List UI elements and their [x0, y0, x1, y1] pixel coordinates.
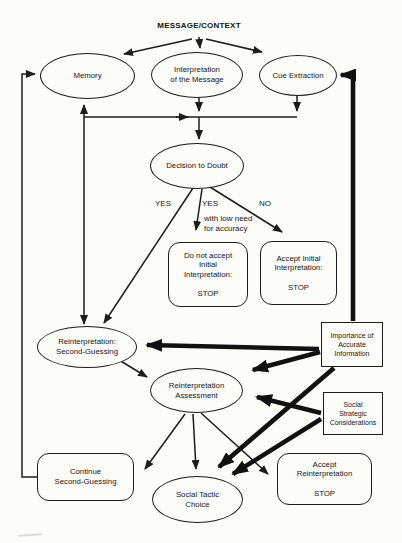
social-strategic-label: Social Strategic Considerations	[330, 400, 377, 427]
importance-label: Importance of Accurate Information	[331, 331, 374, 358]
arrow-secondguessing-to-assessment	[119, 360, 147, 377]
node-continue-second-guessing: Continue Second-Guessing	[37, 453, 134, 501]
no-text: NO	[259, 199, 271, 208]
arrow-context-to-interpretation	[199, 37, 200, 48]
node-do-not-accept: Do not accept Initial Interpretation: ST…	[168, 242, 248, 307]
arrow-importance-to-secondguessing	[147, 345, 319, 349]
arrow-assessment-to-acceptreint	[201, 413, 268, 474]
arrow-importance-to-assessment	[253, 352, 320, 370]
arrow-context-to-memory	[124, 39, 192, 54]
interpretation-label: Interpretation of the Message	[170, 65, 223, 84]
node-importance: Importance of Accurate Information	[321, 322, 383, 367]
node-memory: Memory	[40, 53, 135, 99]
social-tactic-label: Social Tactic Choice	[176, 490, 219, 509]
arrow-assessment-to-continue	[145, 414, 185, 469]
arrow-importance-to-cue-feedback	[341, 75, 353, 321]
message-context-label: MESSAGE/CONTEXT	[141, 21, 257, 31]
assessment-label: Reinterpretation Assessment	[169, 381, 224, 400]
node-accept-initial: Accept Initial Interpretation: STOP	[260, 241, 337, 305]
yes-mid-text: YES	[202, 199, 218, 208]
arrow-yes-to-donotaccept	[196, 189, 202, 230]
yes-left-text: YES	[155, 199, 171, 208]
node-accept-reinterpretation: Accept Reinterpretation STOP	[277, 453, 372, 505]
yes-left-label: YES	[148, 199, 178, 209]
continue-second-guessing-label: Continue Second-Guessing	[55, 467, 117, 486]
no-label: NO	[251, 199, 279, 209]
node-social-tactic: Social Tactic Choice	[152, 476, 243, 523]
message-context-text: MESSAGE/CONTEXT	[157, 21, 240, 30]
yes-mid-label: YES	[196, 199, 224, 209]
cue-extraction-label: Cue Extraction	[272, 71, 323, 81]
arrow-assessment-to-tactic	[193, 414, 196, 469]
second-guessing-label: Reinterpretation: Second-Guessing	[56, 337, 118, 356]
yes-mid-note-label: with low need for accuracy	[204, 214, 258, 234]
node-social-strategic: Social Strategic Considerations	[323, 392, 383, 435]
memory-label: Memory	[73, 71, 101, 81]
do-not-accept-label: Do not accept Initial Interpretation: ST…	[184, 251, 232, 299]
node-second-guessing: Reinterpretation: Second-Guessing	[37, 326, 137, 368]
arrow-social-to-assessment	[257, 397, 321, 413]
node-cue-extraction: Cue Extraction	[259, 55, 337, 96]
arrow-feedback-continue-to-memory	[22, 74, 38, 477]
node-assessment: Reinterpretation Assessment	[150, 368, 243, 413]
node-decision-to-doubt: Decision to Doubt	[150, 143, 244, 189]
yes-mid-note-text: with low need for accuracy	[204, 214, 252, 233]
decision-label: Decision to Doubt	[166, 161, 228, 171]
accept-initial-label: Accept Initial Interpretation: STOP	[274, 254, 322, 292]
arrow-context-to-cue	[206, 39, 262, 52]
accept-reinterpretation-label: Accept Reinterpretation STOP	[297, 460, 352, 498]
diagram-canvas: MESSAGE/CONTEXT Memory Interpretation of…	[0, 0, 402, 543]
node-interpretation: Interpretation of the Message	[151, 52, 243, 98]
